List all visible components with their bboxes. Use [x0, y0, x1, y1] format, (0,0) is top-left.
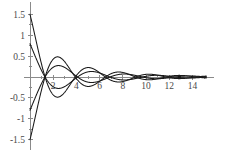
y-tick-label: 0.5 — [13, 52, 25, 62]
damped-oscillation-chart: 2468101214 1.510.5-0.5-1-1.5 — [0, 0, 240, 152]
x-tick-label: 4 — [74, 81, 79, 91]
x-tick-label: 12 — [164, 81, 174, 91]
y-tick-label: 1.5 — [13, 10, 25, 20]
x-tick-label: 10 — [141, 81, 151, 91]
x-tick-label: 14 — [188, 81, 198, 91]
plot-container: 2468101214 1.510.5-0.5-1-1.5 — [0, 0, 240, 152]
y-axis-tick-labels: 1.510.5-0.5-1-1.5 — [10, 10, 25, 145]
y-tick-label: -1 — [17, 114, 25, 124]
x-tick-label: 8 — [120, 81, 125, 91]
curve-line — [30, 14, 206, 97]
y-tick-label: -0.5 — [10, 93, 25, 103]
curve-line — [30, 57, 206, 140]
x-axis-tick-labels: 2468101214 — [51, 81, 198, 91]
x-tick-label: 6 — [97, 81, 102, 91]
x-tick-label: 2 — [51, 81, 56, 91]
y-tick-label: -1.5 — [10, 135, 25, 145]
y-tick-label: 1 — [20, 31, 25, 41]
